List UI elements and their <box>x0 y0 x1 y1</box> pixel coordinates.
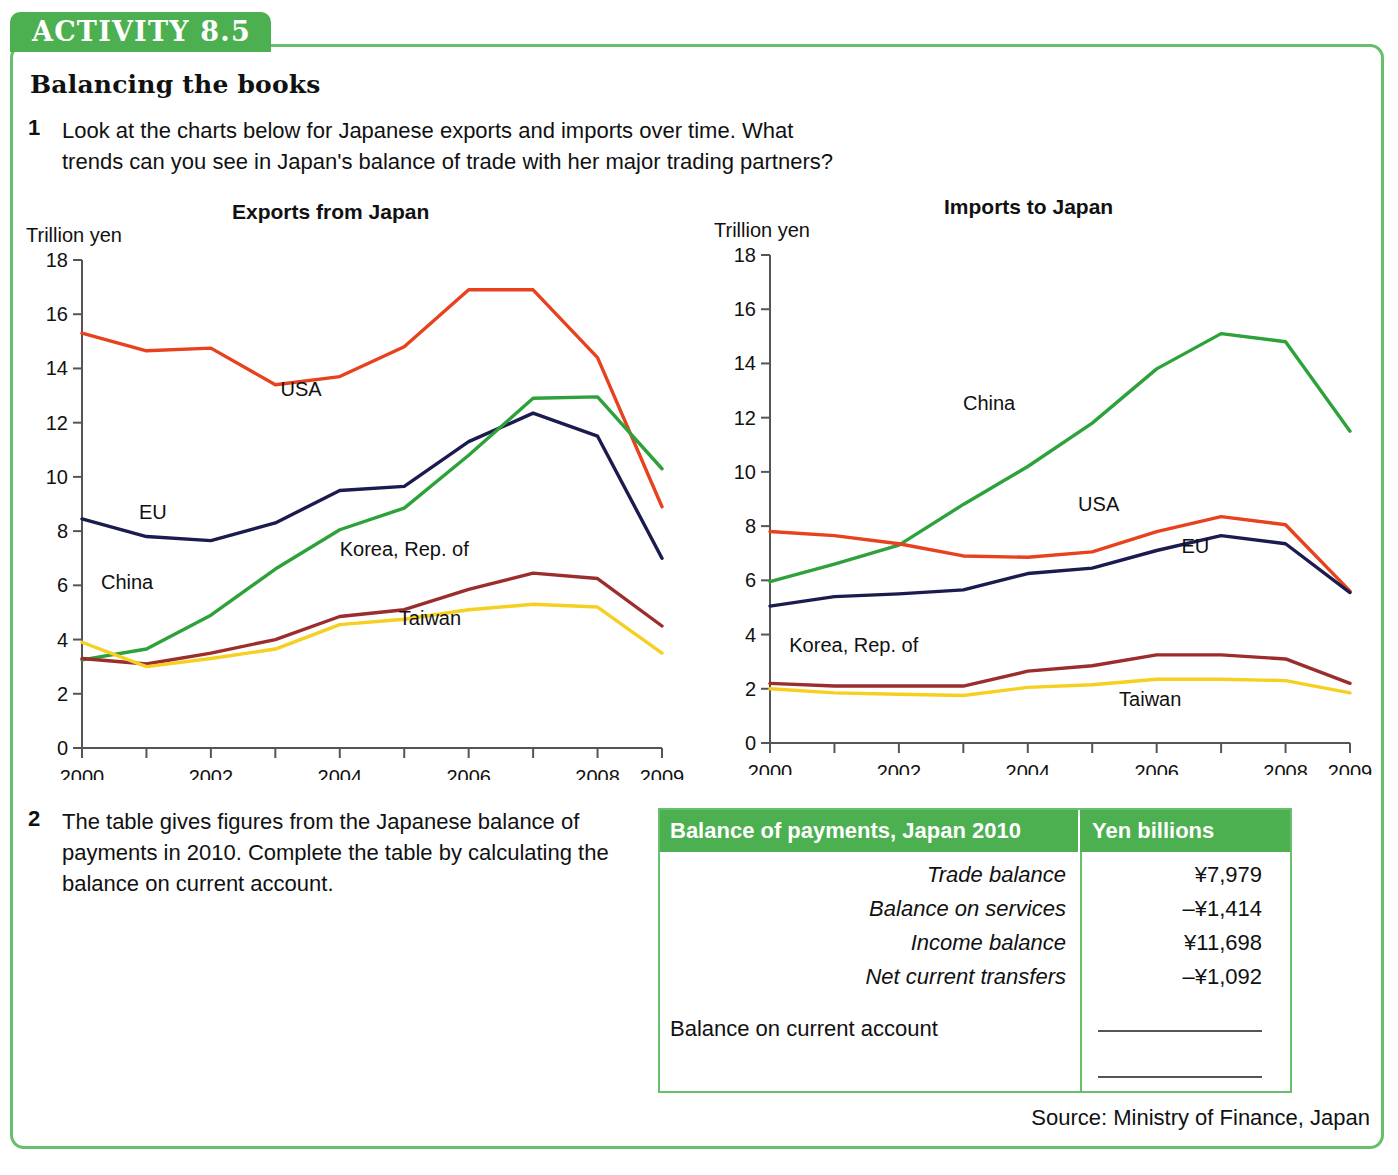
series-label-usa: USA <box>1078 493 1120 515</box>
answer-rule-top <box>1098 1030 1262 1032</box>
svg-text:2: 2 <box>745 678 756 700</box>
series-label-eu: EU <box>139 501 167 523</box>
svg-text:14: 14 <box>734 352 756 374</box>
series-label-eu: EU <box>1181 535 1209 557</box>
question-1-text: Look at the charts below for Japanese ex… <box>62 115 858 177</box>
svg-text:16: 16 <box>46 303 68 325</box>
row-label: Net current transfers <box>660 964 1080 990</box>
table-header-label: Balance of payments, Japan 2010 <box>660 810 1080 852</box>
row-label: Trade balance <box>660 862 1080 888</box>
svg-text:6: 6 <box>57 574 68 596</box>
table-header-row: Balance of payments, Japan 2010 Yen bill… <box>660 810 1290 852</box>
question-2-text: The table gives figures from the Japanes… <box>62 806 638 900</box>
table-rows: Trade balance ¥7,979 Balance on services… <box>660 852 1290 994</box>
activity-page: ACTIVITY 8.5 Balancing the books 1 Look … <box>0 0 1398 1175</box>
svg-text:10: 10 <box>734 461 756 483</box>
question-2-number: 2 <box>28 806 62 900</box>
svg-text:0: 0 <box>57 737 68 759</box>
row-value: –¥1,092 <box>1080 964 1290 990</box>
series-label-china: China <box>963 392 1016 414</box>
row-value: ¥11,698 <box>1080 930 1290 956</box>
svg-text:2008: 2008 <box>575 766 620 780</box>
svg-text:4: 4 <box>745 624 756 646</box>
table-row: Income balance ¥11,698 <box>660 926 1290 960</box>
series-label-china: China <box>101 571 154 593</box>
svg-text:4: 4 <box>57 629 68 651</box>
total-row-label: Balance on current account <box>660 1016 1080 1042</box>
table-header-units: Yen billions <box>1080 810 1290 852</box>
svg-text:2006: 2006 <box>1134 761 1179 775</box>
svg-text:18: 18 <box>46 250 68 271</box>
svg-text:2000: 2000 <box>748 761 793 775</box>
series-label-taiwan: Taiwan <box>399 607 461 629</box>
question-2: 2 The table gives figures from the Japan… <box>28 806 638 900</box>
chart-exports-plot: 024681012141618200020022004200620082009U… <box>24 250 684 780</box>
chart-imports-to-japan: Imports to Japan Trillion yen 0246810121… <box>712 195 1372 780</box>
activity-tab-label: ACTIVITY 8.5 <box>32 18 251 45</box>
activity-tab: ACTIVITY 8.5 <box>10 12 271 52</box>
total-row-answer-area[interactable] <box>1080 1016 1290 1078</box>
table-column-divider <box>1080 852 1082 1093</box>
svg-text:8: 8 <box>745 515 756 537</box>
row-value: –¥1,414 <box>1080 896 1290 922</box>
svg-text:12: 12 <box>46 412 68 434</box>
svg-text:2008: 2008 <box>1263 761 1308 775</box>
table-body: Trade balance ¥7,979 Balance on services… <box>660 852 1290 1093</box>
svg-text:2009: 2009 <box>1328 761 1372 775</box>
source-note: Source: Ministry of Finance, Japan <box>1031 1105 1370 1131</box>
series-label-taiwan: Taiwan <box>1119 688 1181 710</box>
series-label-korea-rep-of: Korea, Rep. of <box>789 634 918 656</box>
svg-text:14: 14 <box>46 357 68 379</box>
row-label: Balance on services <box>660 896 1080 922</box>
table-row: Balance on services –¥1,414 <box>660 892 1290 926</box>
svg-text:2004: 2004 <box>318 766 363 780</box>
row-label: Income balance <box>660 930 1080 956</box>
series-label-korea-rep-of: Korea, Rep. of <box>340 538 469 560</box>
svg-text:2000: 2000 <box>60 766 105 780</box>
svg-text:18: 18 <box>734 245 756 266</box>
svg-text:2: 2 <box>57 683 68 705</box>
question-1-number: 1 <box>28 115 62 177</box>
chart-imports-plot: 024681012141618200020022004200620082009C… <box>712 245 1372 775</box>
svg-text:10: 10 <box>46 466 68 488</box>
row-value: ¥7,979 <box>1080 862 1290 888</box>
table-row: Net current transfers –¥1,092 <box>660 960 1290 994</box>
balance-of-payments-table: Balance of payments, Japan 2010 Yen bill… <box>658 808 1292 1093</box>
page-title: Balancing the books <box>30 70 321 99</box>
table-total-row: Balance on current account <box>660 1016 1290 1078</box>
chart-exports-y-axis-label: Trillion yen <box>26 224 122 247</box>
question-1: 1 Look at the charts below for Japanese … <box>28 115 858 177</box>
svg-text:2002: 2002 <box>877 761 922 775</box>
svg-text:0: 0 <box>745 732 756 754</box>
svg-text:2004: 2004 <box>1006 761 1051 775</box>
svg-text:8: 8 <box>57 520 68 542</box>
svg-text:16: 16 <box>734 298 756 320</box>
table-row: Trade balance ¥7,979 <box>660 858 1290 892</box>
chart-exports-title: Exports from Japan <box>232 200 429 224</box>
svg-text:2006: 2006 <box>446 766 491 780</box>
svg-text:2009: 2009 <box>640 766 684 780</box>
series-label-usa: USA <box>281 378 323 400</box>
svg-text:2002: 2002 <box>189 766 234 780</box>
svg-text:6: 6 <box>745 569 756 591</box>
svg-text:12: 12 <box>734 407 756 429</box>
chart-imports-title: Imports to Japan <box>944 195 1113 219</box>
chart-exports-from-japan: Exports from Japan Trillion yen 02468101… <box>24 200 684 780</box>
chart-imports-y-axis-label: Trillion yen <box>714 219 810 242</box>
answer-rule-bottom <box>1098 1076 1262 1078</box>
